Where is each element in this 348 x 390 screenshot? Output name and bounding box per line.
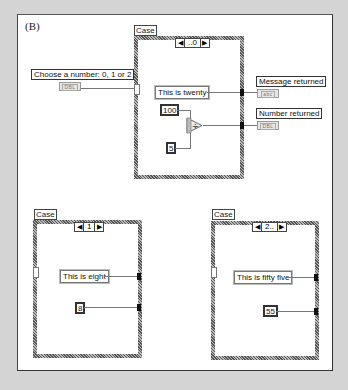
message-indicator-label: Message returned	[256, 76, 326, 87]
dbl-terminal-icon: DBL	[260, 123, 275, 130]
increment-arrow-icon[interactable]: ▶	[277, 222, 286, 232]
svg-text:÷: ÷	[192, 122, 199, 131]
message-wire-inner	[207, 92, 241, 93]
divide-node-icon[interactable]: ÷	[186, 117, 204, 134]
case-0-selector-tunnel	[134, 84, 140, 95]
numeric-constant-8[interactable]: 8	[75, 302, 85, 314]
case-0-label: Case	[134, 25, 157, 36]
case-1-number-tunnel	[137, 304, 141, 311]
case-0-selector-value: ..0	[185, 38, 200, 48]
case-1-selector-tunnel	[33, 267, 39, 278]
case-2-message-tunnel	[314, 274, 318, 281]
wire-100	[177, 110, 191, 111]
case-1-message-tunnel	[137, 273, 141, 280]
input-control-label: Choose a number: 0, 1 or 2	[31, 69, 134, 80]
case-structure-2[interactable]	[211, 221, 319, 360]
case-2-message-wire	[287, 277, 315, 278]
increment-arrow-icon[interactable]: ▶	[200, 38, 209, 48]
wire-5	[175, 148, 191, 149]
case-2-selector-tunnel	[211, 267, 217, 278]
case-1-label: Case	[34, 209, 57, 220]
message-wire-outer	[244, 92, 257, 93]
case-structure-1[interactable]	[33, 220, 142, 358]
number-indicator-terminal[interactable]: DBL	[257, 121, 279, 130]
case-1-selector-value: 1	[84, 222, 94, 232]
message-indicator-terminal[interactable]: abc	[257, 89, 279, 98]
case-structure-0[interactable]	[134, 36, 244, 179]
number-wire-inner	[203, 125, 241, 126]
string-constant-case-1[interactable]: This is eight	[60, 270, 109, 283]
case-2-number-wire	[276, 311, 315, 312]
decrement-arrow-icon[interactable]: ◀	[75, 222, 84, 232]
case-0-selector[interactable]: ◀ ..0 ▶	[175, 38, 210, 48]
figure-label: (B)	[25, 20, 40, 32]
wire-5-up	[190, 133, 191, 148]
case-1-number-wire	[84, 307, 138, 308]
case-1-message-wire	[104, 276, 138, 277]
string-constant-case-0[interactable]: This is twenty	[155, 86, 209, 99]
number-wire-outer	[244, 125, 257, 126]
increment-arrow-icon[interactable]: ▶	[94, 222, 103, 232]
string-terminal-icon: abc	[261, 91, 275, 98]
decrement-arrow-icon[interactable]: ◀	[253, 222, 262, 232]
input-wire	[81, 88, 135, 89]
string-constant-case-2[interactable]: This is fifty five	[234, 271, 292, 284]
case-2-selector-value: 2..	[262, 222, 277, 232]
input-control-terminal[interactable]: DBL	[59, 82, 81, 91]
dbl-terminal-icon: DBL	[62, 84, 77, 91]
case-2-label: Case	[212, 209, 235, 220]
number-indicator-label: Number returned	[256, 108, 322, 119]
decrement-arrow-icon[interactable]: ◀	[176, 38, 185, 48]
case-2-selector[interactable]: ◀ 2.. ▶	[252, 222, 287, 232]
case-2-number-tunnel	[314, 308, 318, 315]
case-1-selector[interactable]: ◀ 1 ▶	[74, 222, 104, 232]
